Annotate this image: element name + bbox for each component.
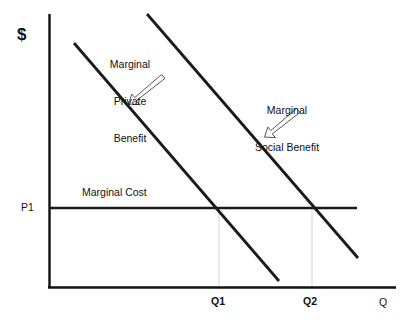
price-label-p1: P1 [21, 201, 34, 213]
msb-label-line-1: Marginal [232, 104, 342, 116]
marginal-social-benefit-label: Marginal Social Benefit [232, 79, 342, 178]
q1-tick-label: Q1 [211, 295, 225, 307]
q2-tick-label: Q2 [303, 295, 317, 307]
mpb-label-line-1: Marginal [96, 58, 164, 70]
marginal-cost-label: Marginal Cost [82, 186, 147, 198]
y-axis-title: $ [17, 25, 26, 45]
msb-label-line-2: Social Benefit [232, 141, 342, 153]
mpb-label-line-3: Benefit [96, 132, 164, 144]
x-axis-title: Q [379, 296, 387, 308]
mpb-label-line-2: Private [96, 95, 164, 107]
marginal-private-benefit-label: Marginal Private Benefit [96, 33, 164, 169]
externality-diagram: $ Q P1 Q1 Q2 Marginal Private Benefit Ma… [0, 0, 401, 321]
